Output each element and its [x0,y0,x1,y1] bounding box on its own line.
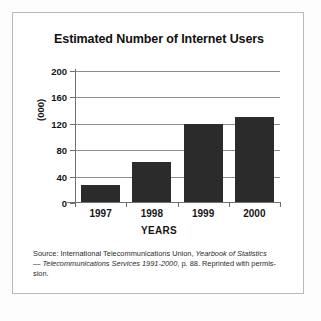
y-axis-title: (000) [35,99,46,121]
plot-area: 04080120160200 1997199819992000 [75,71,280,203]
source-note-line2-text: , p. 88. Reprinted with permis- [177,259,276,268]
y-tick-label: 40 [56,171,67,182]
source-note-line1-text: Source: International Telecommunications… [33,249,196,258]
bar [132,162,171,203]
y-tick-label: 160 [51,92,67,103]
y-tick-label: 0 [62,198,67,209]
source-note-line2-italic: Telecommunications Services 1991-2000 [42,259,177,268]
y-tick-label: 80 [56,145,67,156]
bar [184,124,223,203]
y-axis-line [75,69,76,205]
x-tick-mark [178,203,179,207]
y-tick-label: 120 [51,118,67,129]
bar-slot [229,71,280,203]
bar [81,185,120,203]
figure-root: Estimated Number of Internet Users (000)… [0,0,321,321]
x-tick-label: 1998 [141,208,163,219]
x-tick-label: 1999 [192,208,214,219]
x-tick-mark [229,203,230,207]
x-tick-label: 2000 [243,208,265,219]
source-note-line3: sion. [33,269,49,278]
bar-slot [75,71,126,203]
source-note-line1-italic: Yearbook of Statistics [196,249,267,258]
plot-inner: 04080120160200 1997199819992000 [75,71,280,203]
x-tick-mark [280,203,281,207]
figure-border-frame: Estimated Number of Internet Users (000)… [12,12,304,294]
y-tick-label: 200 [51,66,67,77]
x-axis-line [67,202,281,203]
x-tick-mark [126,203,127,207]
chart-title: Estimated Number of Internet Users [13,32,305,46]
source-note: Source: International Telecommunications… [33,249,289,280]
x-tick-label: 1997 [90,208,112,219]
bars-layer [75,71,280,203]
bar [235,117,274,203]
bar-slot [126,71,177,203]
bar-slot [178,71,229,203]
x-axis-title: YEARS [13,225,305,236]
